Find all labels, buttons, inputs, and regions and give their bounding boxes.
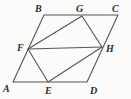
vertex-label-b: B <box>35 4 42 14</box>
vertex-label-c: C <box>112 4 119 14</box>
segment-fh <box>28 47 102 49</box>
vertex-label-f: F <box>17 43 24 53</box>
vertex-label-a: A <box>3 84 10 94</box>
vertex-label-g: G <box>76 4 83 14</box>
vertex-label-e: E <box>45 86 52 96</box>
vertex-label-h: H <box>106 44 114 54</box>
vertex-label-d: D <box>90 86 97 96</box>
geometry-figure: ABCDEFGH <box>0 0 131 99</box>
shape-layer <box>13 15 118 82</box>
